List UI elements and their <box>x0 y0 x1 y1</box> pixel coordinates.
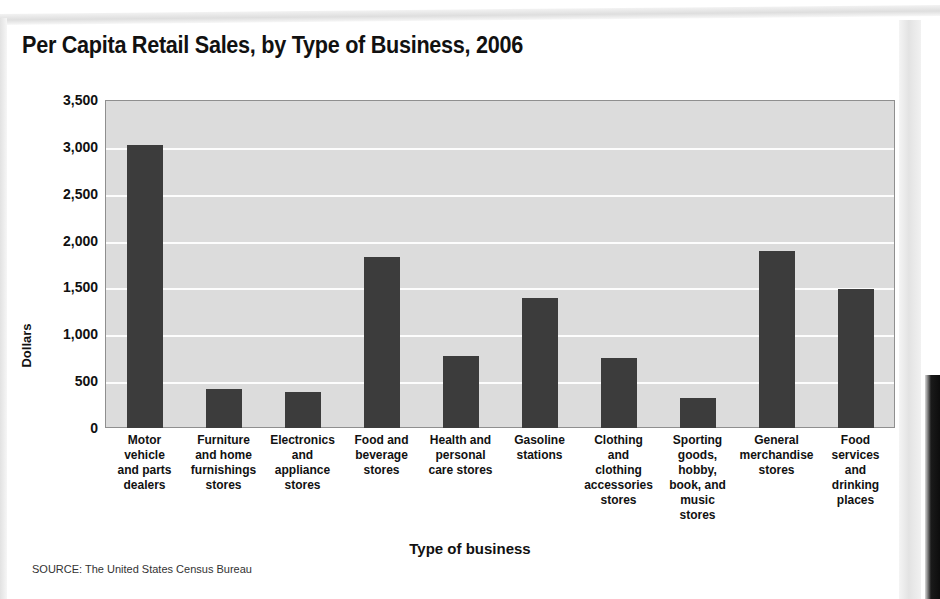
x-axis-category-label: Clothing and clothing accessories stores <box>579 433 658 508</box>
y-axis-tick-label: 3,000 <box>28 139 98 155</box>
source-note: SOURCE: The United States Census Bureau <box>32 563 252 575</box>
x-axis-category-label: Food services and drinking places <box>816 433 895 508</box>
bar <box>285 392 321 428</box>
bar <box>522 298 558 428</box>
chart-title: Per Capita Retail Sales, by Type of Busi… <box>22 32 680 59</box>
x-axis-category-label: Furniture and home furnishings stores <box>184 433 263 493</box>
page-gutter-shadow <box>925 375 940 599</box>
y-axis-tick-label: 2,500 <box>28 186 98 202</box>
y-axis-tick-label: 1,000 <box>28 326 98 342</box>
y-axis: Dollars 05001,0001,5002,0002,5003,0003,5… <box>22 100 98 428</box>
y-axis-tick-label: 3,500 <box>28 92 98 108</box>
x-axis-category-label: General merchandise stores <box>737 433 816 478</box>
bar <box>206 389 242 428</box>
x-axis-category-label: Food and beverage stores <box>342 433 421 478</box>
bar <box>601 358 637 428</box>
y-axis-tick-label: 500 <box>28 373 98 389</box>
x-axis-title: Type of business <box>0 540 940 557</box>
page-edge-left <box>0 18 7 599</box>
x-axis-category-label: Electronics and appliance stores <box>263 433 342 493</box>
x-axis-category-label: Gasoline stations <box>500 433 579 463</box>
x-axis-category-label: Health and personal care stores <box>421 433 500 478</box>
y-axis-tick-label: 0 <box>28 420 98 436</box>
x-axis-category-label: Motor vehicle and parts dealers <box>105 433 184 493</box>
x-axis-category-labels: Motor vehicle and parts dealersFurniture… <box>105 433 895 541</box>
bar <box>443 356 479 428</box>
bar <box>759 251 795 428</box>
bar <box>680 398 716 428</box>
x-axis-category-label: Sporting goods, hobby, book, and music s… <box>658 433 737 523</box>
bar <box>364 257 400 428</box>
bar <box>127 145 163 428</box>
y-axis-tick-label: 2,000 <box>28 233 98 249</box>
page-edge-top <box>0 5 940 25</box>
y-axis-tick-label: 1,500 <box>28 279 98 295</box>
page-edge-right <box>899 20 921 599</box>
bar-series <box>105 100 895 428</box>
bar <box>838 289 874 428</box>
